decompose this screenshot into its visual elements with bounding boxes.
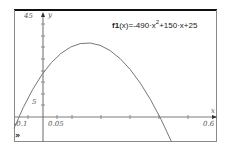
function-label[interactable]: f1(x)=-490·x2+150·x+25: [112, 19, 197, 30]
y-axis-arrow-icon: [41, 12, 45, 17]
x-min-label: -0.1: [14, 121, 28, 128]
y-tick-label: 5: [32, 99, 36, 106]
function-expr-b: +150·x+25: [159, 21, 197, 30]
expand-entry-line-button[interactable]: »: [15, 131, 20, 140]
function-expr-a: =-490·x: [128, 21, 155, 30]
x-axis-label: x: [211, 108, 215, 115]
y-axis-label: y: [48, 12, 52, 19]
y-max-label: 45: [24, 13, 33, 20]
double-chevron-right-icon: »: [15, 131, 20, 140]
f1-curve[interactable]: [14, 43, 172, 142]
x-max-label: 0.6: [203, 121, 214, 128]
x-axis-arrow-icon: [212, 115, 217, 119]
x-tick-label: 0.05: [48, 121, 64, 128]
